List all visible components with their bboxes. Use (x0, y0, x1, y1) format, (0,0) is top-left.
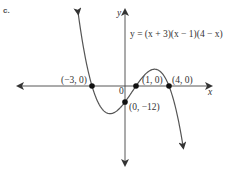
x-axis-label: x (207, 87, 213, 97)
key-point-0 (89, 83, 95, 89)
point-label-1: (1, 0) (142, 75, 163, 86)
key-point-3 (122, 99, 128, 105)
cubic-graph: y x 0 y = (x + 3)(x − 1)(4 − x) (−3, 0) … (0, 0, 229, 169)
point-label-y-intercept: (0, −12) (129, 102, 160, 113)
equation-label: y = (x + 3)(x − 1)(4 − x) (130, 29, 223, 40)
point-label-4: (4, 0) (172, 75, 193, 86)
key-point-1 (133, 83, 139, 89)
origin-label: 0 (119, 86, 124, 96)
key-point-2 (166, 83, 172, 89)
point-label-neg3: (−3, 0) (61, 75, 87, 86)
y-axis-label: y (116, 8, 122, 18)
